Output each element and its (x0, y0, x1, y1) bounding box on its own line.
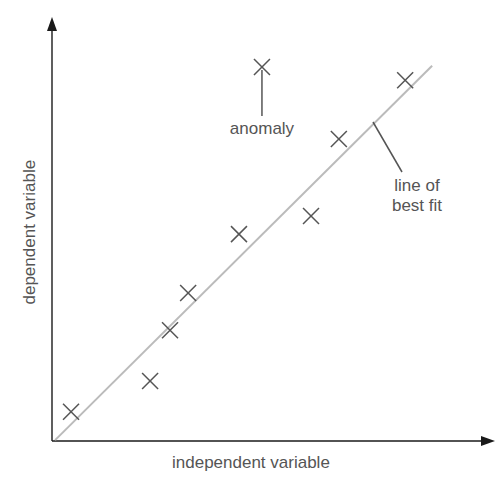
x-axis-arrowhead-icon (481, 436, 495, 446)
data-point-marker-icon (397, 72, 413, 88)
fit-line-pointer (373, 122, 402, 172)
data-point-marker-icon (180, 285, 196, 301)
scatter-chart (0, 0, 504, 491)
best-fit-label-line1: line of (378, 176, 456, 196)
data-point-marker-icon (303, 208, 319, 224)
data-point-marker-icon (63, 404, 79, 420)
y-axis-label: dependent variable (20, 160, 40, 305)
best-fit-label: line of best fit (378, 176, 456, 217)
data-point-marker-icon (142, 373, 158, 389)
x-axis-label: independent variable (172, 453, 330, 473)
data-point-marker-icon (331, 131, 347, 147)
y-axis-arrowhead-icon (47, 17, 57, 31)
data-point-marker-icon (231, 226, 247, 242)
best-fit-label-line2: best fit (378, 196, 456, 216)
anomaly-label: anomaly (222, 119, 302, 139)
data-point-marker-icon (162, 322, 178, 338)
